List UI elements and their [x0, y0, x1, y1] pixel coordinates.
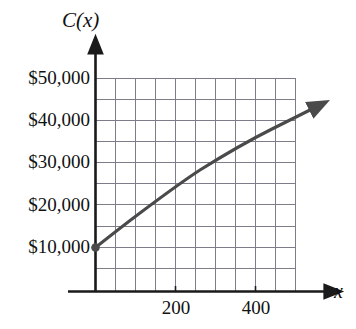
curve-start-point	[91, 243, 100, 252]
x-tick-label-400: 400	[226, 298, 286, 317]
grid-lines	[95, 78, 296, 291]
x-axis-label: x	[334, 281, 343, 301]
y-tick-label-50000: $50,000	[28, 68, 90, 87]
x-tick-label-200: 200	[146, 298, 206, 317]
cost-function-chart: C(x) x $50,000 $40,000 $30,000 $20,000 $…	[0, 0, 356, 329]
cost-curve-group	[91, 109, 312, 252]
y-tick-label-30000: $30,000	[28, 152, 90, 171]
grid-vertical-lines	[96, 78, 296, 291]
y-tick-label-10000: $10,000	[28, 237, 90, 256]
y-axis-label: C(x)	[62, 10, 99, 31]
y-tick-label-40000: $40,000	[28, 110, 90, 129]
y-tick-label-20000: $20,000	[28, 195, 90, 214]
